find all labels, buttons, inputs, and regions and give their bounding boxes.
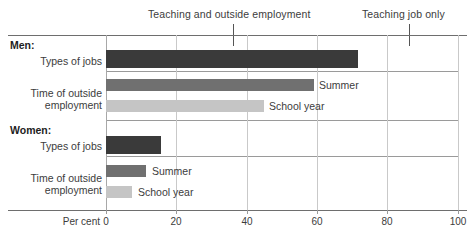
gridline-100 <box>458 35 459 210</box>
row-separator-1 <box>106 71 458 72</box>
tickmark-80 <box>387 210 388 214</box>
plot-bottom-border <box>8 210 467 211</box>
row-label-line1: Time of outside <box>31 172 102 184</box>
bar-men-school-year <box>106 100 264 112</box>
plot-top-border <box>8 35 467 36</box>
bar-label-men-school-year: School year <box>269 100 324 112</box>
xtick-label-100: 100 <box>444 216 472 227</box>
row-label-line2: employment <box>45 184 102 196</box>
row-label-line2: employment <box>45 99 102 111</box>
bar-label-women-summer: Summer <box>152 165 192 177</box>
gridline-80 <box>387 35 388 210</box>
axis-title-per-cent: Per cent <box>44 216 100 227</box>
bar-men-summer <box>106 79 314 91</box>
tickmark-60 <box>317 210 318 214</box>
row-label-women-types-of-jobs: Types of jobs <box>6 140 102 152</box>
tickmark-40 <box>247 210 248 214</box>
group-header-women: Women: <box>10 124 51 136</box>
bar-men-types-of-jobs <box>106 50 358 68</box>
tickmark-20 <box>176 210 177 214</box>
tickmark-0 <box>106 210 107 214</box>
bar-women-types-of-jobs <box>106 136 161 154</box>
bar-women-summer <box>106 165 146 177</box>
group-header-men: Men: <box>10 39 35 51</box>
xtick-label-80: 80 <box>375 216 399 227</box>
bar-label-men-summer: Summer <box>319 79 359 91</box>
annotation-teaching-and-outside-employment: Teaching and outside employment <box>148 8 310 20</box>
chart-root: Teaching and outside employment Teaching… <box>0 0 475 246</box>
annotation-teaching-job-only: Teaching job only <box>362 8 445 20</box>
xtick-label-20: 20 <box>164 216 188 227</box>
tickmark-100 <box>458 210 459 214</box>
row-separator-2 <box>106 120 458 121</box>
bar-label-women-school-year: School year <box>138 186 193 198</box>
row-label-women-time-of-outside-employment: Time of outside employment <box>6 172 102 196</box>
xtick-label-0: 0 <box>96 216 116 227</box>
row-label-men-time-of-outside-employment: Time of outside employment <box>6 87 102 111</box>
bar-women-school-year <box>106 186 132 198</box>
row-separator-3 <box>106 156 458 157</box>
row-label-men-types-of-jobs: Types of jobs <box>6 55 102 67</box>
row-label-line1: Time of outside <box>31 87 102 99</box>
xtick-label-40: 40 <box>235 216 259 227</box>
xtick-label-60: 60 <box>305 216 329 227</box>
